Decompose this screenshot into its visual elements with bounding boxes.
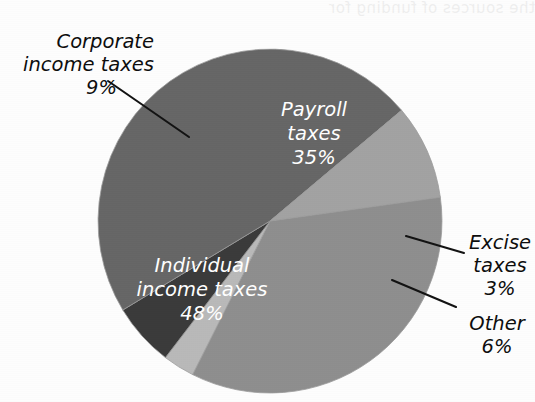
outside-label-excise: Excise taxes 3% xyxy=(469,231,531,300)
individual-label-line1: Individual xyxy=(155,254,251,277)
individual-label-percent: 48% xyxy=(180,302,223,325)
pie-chart-svg: Payroll taxes 35% Individual income taxe… xyxy=(0,0,535,402)
other-label-line1: Other xyxy=(469,312,526,335)
payroll-label-line2: taxes xyxy=(287,122,340,145)
corporate-label-line2: income taxes xyxy=(23,53,154,76)
corporate-label-line1: Corporate xyxy=(57,30,154,53)
excise-label-line2: taxes xyxy=(473,254,526,277)
pie-chart-figure: the sources of funding for Payroll taxes… xyxy=(0,0,535,402)
excise-label-percent: 3% xyxy=(485,277,516,300)
outside-label-other: Other 6% xyxy=(469,312,526,358)
other-label-percent: 6% xyxy=(482,335,513,358)
corporate-label-percent: 9% xyxy=(86,76,117,99)
excise-label-line1: Excise xyxy=(469,231,531,254)
outside-label-corporate: Corporate income taxes 9% xyxy=(23,30,154,99)
individual-label-line2: income taxes xyxy=(137,278,268,301)
payroll-label-line1: Payroll xyxy=(281,98,348,121)
payroll-label-percent: 35% xyxy=(292,146,335,169)
pie-slices-group xyxy=(98,49,442,393)
